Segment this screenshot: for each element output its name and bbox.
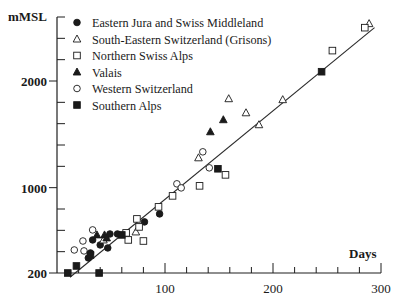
data-point-open-square (169, 193, 176, 200)
data-point-filled-square (318, 68, 325, 75)
data-point-open-circle (178, 185, 185, 192)
data-point-open-square (196, 183, 203, 190)
data-point-filled-circle (156, 211, 163, 218)
data-point-filled-square (87, 252, 94, 259)
legend-marker-open-square (74, 52, 81, 59)
data-point-open-square (362, 24, 369, 31)
legend-label: Eastern Jura and Swiss Middleland (92, 16, 263, 30)
data-point-open-square (136, 224, 143, 231)
legend-label: Western Switzerland (92, 82, 193, 96)
x-axis-label: Days (349, 246, 376, 261)
data-point-open-circle (81, 248, 88, 255)
data-point-open-square (329, 47, 336, 54)
legend-label: Valais (92, 66, 122, 80)
data-point-filled-square (119, 232, 126, 239)
data-point-open-circle (89, 227, 96, 234)
data-point-open-triangle (225, 95, 233, 102)
x-tick-label: 100 (155, 281, 175, 296)
data-point-open-circle (80, 238, 87, 245)
legend-label: Northern Swiss Alps (92, 49, 193, 63)
data-point-filled-square (96, 270, 103, 277)
data-point-filled-circle (104, 245, 111, 252)
data-point-filled-triangle (207, 128, 215, 135)
y-axis-label: mMSL (8, 9, 47, 24)
data-point-open-square (222, 172, 229, 179)
x-tick-label: 200 (263, 281, 283, 296)
data-point-filled-triangle (220, 116, 228, 123)
legend-marker-filled-square (74, 102, 81, 109)
legend-label: South-Eastern Switzerland (Grisons) (92, 33, 271, 47)
data-point-open-square (140, 238, 147, 245)
y-tick-label: 2000 (21, 74, 47, 89)
data-point-filled-square (73, 263, 80, 270)
legend-marker-open-circle (74, 85, 81, 92)
data-point-open-circle (71, 247, 78, 254)
data-point-open-square (134, 216, 141, 223)
y-tick-label: 1000 (21, 181, 47, 196)
legend: Eastern Jura and Swiss MiddlelandSouth-E… (73, 16, 271, 113)
data-point-open-square (125, 237, 132, 244)
legend-marker-filled-circle (74, 19, 81, 26)
data-point-open-circle (206, 165, 213, 172)
y-tick-label: 200 (28, 266, 48, 281)
legend-marker-open-triangle (73, 35, 81, 42)
data-point-filled-square (65, 270, 72, 277)
data-point-open-triangle (279, 96, 287, 103)
legend-label: Southern Alps (92, 99, 162, 113)
legend-marker-filled-triangle (73, 68, 81, 75)
data-point-open-triangle (242, 109, 250, 116)
x-tick-label: 300 (371, 281, 391, 296)
data-point-open-circle (200, 149, 207, 156)
data-point-filled-square (215, 165, 222, 172)
scatter-chart: 20010002000100200300 mMSL Days Eastern J… (0, 0, 400, 306)
data-point-open-square (155, 204, 162, 211)
